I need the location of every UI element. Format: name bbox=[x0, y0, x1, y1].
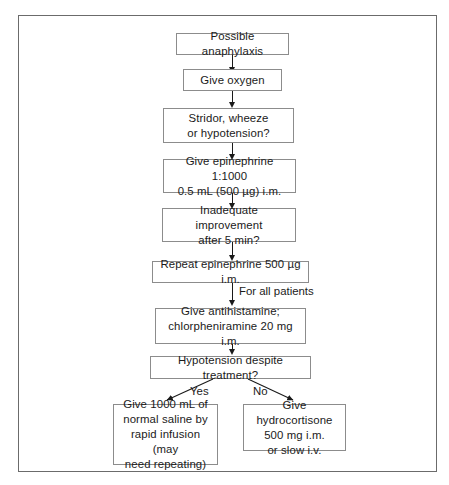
edge-label-no: No bbox=[253, 384, 268, 398]
node-hypotension-despite-treatment: Hypotension despite treatment? bbox=[150, 356, 311, 379]
node-give-hydrocortisone: Give hydrocortisone 500 mg i.m. or slow … bbox=[243, 404, 346, 451]
node-stridor-wheeze-hypotension: Stridor, wheeze or hypotension? bbox=[163, 108, 294, 143]
node-inadequate-improvement: Inadequate improvement after 5 min? bbox=[162, 208, 296, 242]
edge-label-yes: Yes bbox=[190, 384, 209, 398]
flowchart-canvas: For all patients Yes No Possible anaphyl… bbox=[0, 0, 449, 485]
node-give-antihistamine: Give antihistamine; chlorpheniramine 20 … bbox=[155, 308, 306, 344]
node-possible-anaphylaxis: Possible anaphylaxis bbox=[176, 33, 289, 55]
node-give-epinephrine: Give epinephrine 1:1000 0.5 mL (500 µg) … bbox=[163, 159, 296, 193]
node-give-oxygen: Give oxygen bbox=[183, 69, 282, 91]
node-repeat-epinephrine: Repeat epinephrine 500 µg i.m. bbox=[152, 261, 309, 283]
node-give-saline: Give 1000 mL of normal saline by rapid i… bbox=[113, 404, 218, 465]
